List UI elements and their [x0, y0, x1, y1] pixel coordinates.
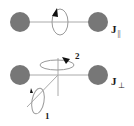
diagram-canvas — [0, 0, 134, 126]
j-parallel-main: J — [111, 23, 117, 35]
rotation-loop-axis-2 — [40, 60, 74, 70]
j-perpendicular-main: J — [111, 75, 117, 87]
atom-left-top — [10, 12, 30, 32]
atom-right-top — [88, 12, 108, 32]
j-perpendicular-label: J⊥ — [111, 76, 124, 87]
rotation-arrow-axis-1-icon — [30, 88, 33, 93]
rotation-arrow-parallel-icon — [52, 8, 58, 17]
top-panel — [10, 8, 108, 35]
bottom-panel — [10, 57, 108, 115]
j-parallel-subscript: || — [118, 29, 121, 38]
j-perpendicular-subscript: ⊥ — [118, 81, 125, 90]
j-parallel-label: J|| — [111, 24, 120, 35]
axis-label-1: 1 — [45, 112, 50, 121]
atom-left-bottom — [10, 65, 30, 85]
axis-label-2: 2 — [75, 52, 80, 61]
atom-right-bottom — [88, 65, 108, 85]
